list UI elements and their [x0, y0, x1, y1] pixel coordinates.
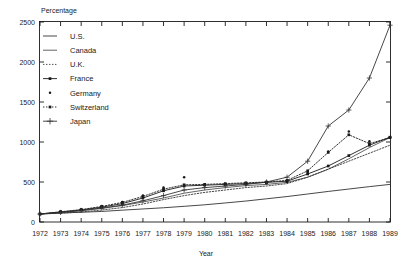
legend-item-japan: Japan: [43, 117, 90, 126]
series-line-canada: [40, 138, 390, 214]
legend-marker-square: [49, 106, 52, 109]
legend-item-uk: U.K.: [43, 60, 85, 69]
marker-dot: [348, 130, 351, 133]
marker-dot: [183, 176, 186, 179]
x-tick-label: 1983: [259, 230, 275, 237]
legend-marker-dot: [49, 92, 52, 95]
marker-square: [347, 133, 350, 136]
marker-square: [347, 154, 350, 157]
marker-dot: [368, 140, 371, 143]
legend-item-germany: Germany: [49, 89, 101, 98]
legend-item-switzerland: Switzerland: [43, 103, 109, 112]
x-tick-label: 1975: [94, 230, 110, 237]
x-tick-label: 1974: [73, 230, 89, 237]
legend-label: Canada: [70, 46, 97, 55]
x-tick-label: 1978: [156, 230, 172, 237]
legend-item-france: France: [43, 74, 93, 83]
y-axis-tick-labels: 05001000150020002500: [19, 19, 35, 226]
y-axis-title: Percentage: [41, 7, 77, 15]
x-axis-tick-labels: 1972197319741975197619771978197919801981…: [32, 230, 398, 237]
x-tick-label: 1976: [115, 230, 131, 237]
x-tick-label: 1987: [341, 230, 357, 237]
x-tick-label: 1986: [320, 230, 336, 237]
legend-item-us: U.S.: [43, 32, 85, 41]
legend-label: Switzerland: [70, 103, 109, 112]
line-chart: Percentage Year 05001000150020002500 197…: [0, 0, 410, 261]
chart-figure: Percentage Year 05001000150020002500 197…: [0, 0, 410, 261]
y-tick-label: 1000: [19, 139, 35, 146]
x-tick-label: 1989: [382, 230, 398, 237]
x-tick-label: 1979: [176, 230, 192, 237]
x-tick-label: 1985: [300, 230, 316, 237]
x-axis-title: Year: [199, 250, 214, 257]
x-tick-label: 1984: [279, 230, 295, 237]
legend-label: France: [70, 74, 93, 83]
x-tick-label: 1980: [197, 230, 213, 237]
x-tick-label: 1972: [32, 230, 48, 237]
series-line-switzerland: [40, 135, 390, 214]
x-tick-label: 1973: [53, 230, 69, 237]
marker-square: [389, 136, 392, 139]
marker-square: [183, 183, 186, 186]
x-tick-label: 1981: [218, 230, 234, 237]
marker-square: [327, 165, 330, 168]
x-tick-label: 1982: [238, 230, 254, 237]
legend-label: U.S.: [70, 32, 85, 41]
series-line-france: [40, 137, 390, 214]
x-tick-label: 1977: [135, 230, 151, 237]
legend-label: Japan: [70, 117, 90, 126]
marker-square: [327, 151, 330, 154]
marker-square: [162, 188, 165, 191]
legend-item-canada: Canada: [43, 46, 97, 55]
y-tick-label: 500: [23, 179, 35, 186]
marker-square: [368, 142, 371, 145]
legend-label: U.K.: [70, 60, 85, 69]
y-tick-label: 0: [31, 219, 35, 226]
y-tick-label: 2500: [19, 19, 35, 26]
marker-square: [142, 195, 145, 198]
x-tick-label: 1988: [362, 230, 378, 237]
y-tick-label: 2000: [19, 59, 35, 66]
chart-legend: U.S.CanadaU.K.FranceGermanySwitzerlandJa…: [43, 32, 109, 126]
y-tick-label: 1500: [19, 99, 35, 106]
marker-square: [306, 169, 309, 172]
legend-marker-square: [49, 77, 52, 80]
legend-label: Germany: [70, 89, 101, 98]
